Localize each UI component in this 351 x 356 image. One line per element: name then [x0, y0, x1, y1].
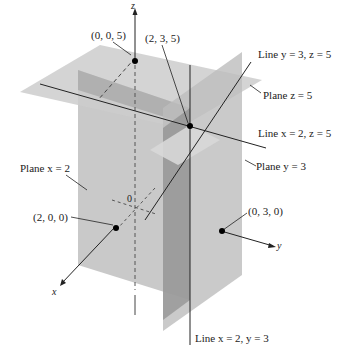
- point-235: [187, 123, 193, 129]
- point-005-label: (0, 0, 5): [91, 29, 126, 41]
- line-x2-z5-label: Line x = 2, z = 5: [258, 127, 331, 139]
- origin-label: 0: [127, 193, 132, 205]
- leader-plane-y3: [245, 160, 256, 166]
- line-x2-y3-label: Line x = 2, y = 3: [195, 332, 269, 344]
- y-axis-label: y: [277, 240, 281, 252]
- x-axis-label: x: [52, 286, 56, 298]
- point-200-label: (2, 0, 0): [33, 211, 68, 223]
- point-200: [113, 225, 119, 231]
- leader-plane-z5: [250, 85, 261, 93]
- z-axis-label: z: [131, 0, 135, 12]
- point-235-label: (2, 3, 5): [145, 32, 180, 44]
- y-axis-arrow: [268, 243, 276, 248]
- plane-x2-label: Plane x = 2: [20, 162, 70, 174]
- plane-z5-label: Plane z = 5: [263, 89, 312, 101]
- plane-y3-label: Plane y = 3: [256, 160, 306, 172]
- point-005: [132, 58, 138, 64]
- line-y3-z5-label: Line y = 3, z = 5: [258, 48, 331, 60]
- point-030-label: (0, 3, 0): [248, 205, 283, 217]
- point-030: [219, 228, 225, 234]
- 3d-planes-diagram: z y x 0 (0, 0, 5) (2, 3, 5) (2, 0, 0) (0…: [0, 0, 351, 356]
